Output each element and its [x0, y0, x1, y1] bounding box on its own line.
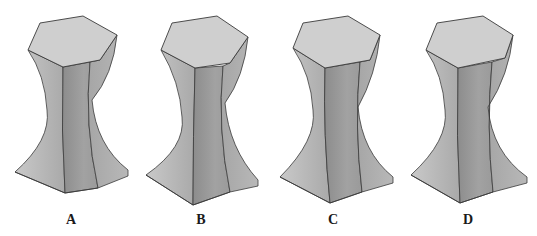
option-label-b: B [186, 211, 216, 229]
option-label-a: A [56, 211, 86, 229]
solid-c [280, 16, 393, 203]
solid-b [146, 16, 258, 205]
front-face [457, 62, 493, 203]
left-face [411, 50, 460, 203]
option-label-c: C [318, 211, 348, 229]
solid-d [411, 16, 527, 203]
figure-canvas [0, 0, 537, 236]
left-face [146, 50, 195, 205]
left-face [280, 48, 330, 203]
solid-a [15, 16, 128, 193]
front-face [325, 62, 362, 203]
option-label-d: D [453, 211, 483, 229]
left-face [15, 50, 65, 193]
